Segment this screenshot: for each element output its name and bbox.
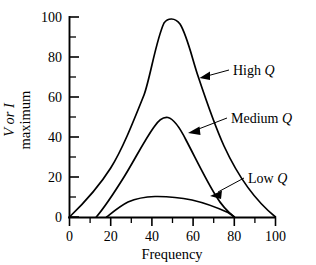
- annotation-high-q-symbol: Q: [265, 63, 275, 78]
- x-tick-label-100: 100: [265, 229, 286, 244]
- y-axis-title-line2: maximum: [17, 90, 33, 150]
- chart-figure: 100 80 60 40 20 0 0 20 40 60 80 100 Freq…: [0, 0, 316, 265]
- y-tick-label-100: 100: [41, 10, 62, 25]
- curve-low-q: [107, 196, 235, 217]
- annotation-medium-q-symbol: Q: [282, 111, 292, 126]
- high-q-arrowhead: [200, 72, 211, 81]
- annotations-group: [188, 70, 244, 199]
- annotation-high-q: High Q: [233, 63, 275, 78]
- y-axis-title: V or I maximum: [1, 90, 33, 150]
- annotation-high-q-prefix: High: [233, 63, 261, 78]
- annotation-medium-q: Medium Q: [231, 111, 292, 126]
- medium-q-leader-line: [196, 118, 227, 130]
- x-tick-label-60: 60: [186, 229, 200, 244]
- x-tick-label-80: 80: [227, 229, 241, 244]
- curve-medium-q: [96, 117, 234, 217]
- x-axis-ticks: [70, 218, 276, 227]
- y-tick-label-0: 0: [55, 210, 62, 225]
- annotation-labels: High Q Medium Q Low Q: [231, 63, 292, 186]
- high-q-leader-line: [207, 70, 229, 76]
- annotation-low-q-prefix: Low: [248, 171, 275, 186]
- x-tick-label-40: 40: [145, 229, 159, 244]
- y-tick-labels: 100 80 60 40 20 0: [41, 10, 62, 225]
- y-tick-label-60: 60: [48, 90, 62, 105]
- low-q-arrowhead: [210, 191, 222, 200]
- annotation-low-q-symbol: Q: [277, 171, 287, 186]
- annotation-medium-q-prefix: Medium: [231, 111, 279, 126]
- x-tick-labels: 0 20 40 60 80 100: [66, 229, 286, 244]
- y-tick-label-20: 20: [48, 170, 62, 185]
- y-tick-label-80: 80: [48, 50, 62, 65]
- x-tick-label-20: 20: [104, 229, 118, 244]
- y-axis-ticks: [70, 17, 80, 217]
- x-tick-label-0: 0: [66, 229, 73, 244]
- resonance-curves-plot: 100 80 60 40 20 0 0 20 40 60 80 100 Freq…: [0, 0, 316, 265]
- medium-q-arrowhead: [188, 127, 201, 136]
- y-axis-title-line1: V or I: [1, 102, 17, 137]
- x-axis-title: Frequency: [141, 246, 203, 262]
- annotation-low-q: Low Q: [248, 171, 287, 186]
- low-q-leader-line: [218, 178, 244, 192]
- y-tick-label-40: 40: [48, 130, 62, 145]
